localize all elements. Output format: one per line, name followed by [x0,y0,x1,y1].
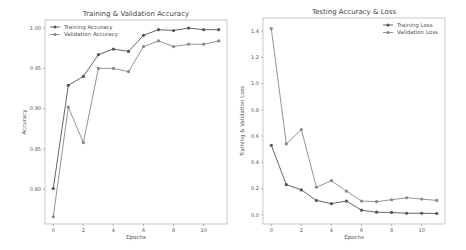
data-point [172,29,175,32]
accuracy-chart: Training & Validation Accuracy0246810Epo… [21,10,227,241]
data-point [300,128,303,131]
legend: Training LossValidation Loss [383,22,438,36]
data-point [97,53,100,56]
data-point [390,211,393,214]
data-point [157,39,160,42]
series-line-validation-loss [271,28,436,201]
data-point [405,212,408,215]
y-tick-label: 0.2 [251,185,259,191]
figure: Training & Validation Accuracy0246810Epo… [0,0,466,250]
legend-label: Training Accuracy [63,24,113,31]
x-tick-label: 6 [360,227,363,233]
data-point [420,197,423,200]
y-tick-label: 1.00 [30,25,41,31]
data-point [187,43,190,46]
x-tick-label: 6 [142,227,145,233]
data-point [112,47,115,50]
y-tick-label: 0.4 [251,159,259,165]
chart-title: Testing Accuracy & Loss [311,8,396,16]
plot-frame [45,20,227,224]
data-point [217,39,220,42]
y-tick-label: 0.0 [251,212,259,218]
series-line-validation-accuracy [53,41,218,217]
data-point [270,144,273,147]
x-tick-label: 8 [390,227,393,233]
data-point [360,209,363,212]
data-point [157,28,160,31]
legend: Training AccuracyValidation Accuracy [50,24,119,39]
data-point [375,211,378,214]
y-tick-label: 1.2 [251,54,259,60]
loss-chart: Testing Accuracy & Loss0246810Epochs0.00… [239,8,445,241]
x-tick-label: 4 [112,227,115,233]
x-tick-label: 2 [82,227,85,233]
y-tick-label: 0.85 [30,146,41,152]
y-tick-label: 0.80 [30,186,41,192]
y-tick-label: 0.90 [30,105,41,111]
data-point [67,105,70,108]
data-point [285,142,288,145]
data-point [285,183,288,186]
data-point [82,141,85,144]
data-point [300,188,303,191]
data-point [435,199,438,202]
data-point [420,212,423,215]
data-point [390,198,393,201]
series-line-training-accuracy [53,28,218,188]
data-point [330,202,333,205]
y-tick-label: 1.4 [251,28,259,34]
y-tick-label: 0.8 [251,107,259,113]
x-tick-label: 0 [270,227,273,233]
data-point [345,190,348,193]
x-tick-label: 10 [200,227,206,233]
data-point [112,67,115,70]
data-point [142,34,145,37]
x-axis-label: Epochs [344,234,364,241]
data-point [330,179,333,182]
data-point [270,27,273,30]
data-point [67,84,70,87]
data-point [345,199,348,202]
data-point [315,186,318,189]
data-point [405,196,408,199]
x-tick-label: 8 [172,227,175,233]
x-tick-label: 0 [52,227,55,233]
data-point [172,45,175,48]
y-tick-label: 0.95 [30,65,41,71]
legend-marker [53,25,56,28]
x-tick-label: 2 [300,227,303,233]
data-point [315,199,318,202]
series-line-training-loss [271,145,436,213]
legend-label: Validation Loss [397,29,438,35]
y-tick-label: 0.6 [251,133,259,139]
x-axis-label: Epochs [126,234,146,241]
y-tick-label: 1.0 [251,80,259,86]
legend-marker [386,31,389,34]
data-point [52,215,55,218]
data-point [142,45,145,48]
legend-label: Validation Accuracy [64,31,119,38]
y-axis-label: Accuracy [21,109,28,135]
data-point [375,200,378,203]
legend-label: Training Loss [396,22,433,29]
chart-title: Training & Validation Accuracy [82,10,189,18]
legend-marker [386,23,389,26]
data-point [202,43,205,46]
data-point [127,70,130,73]
data-point [187,26,190,29]
plot-frame [263,18,445,224]
data-point [360,199,363,202]
y-axis-label: Training & Validation Loss [239,86,246,158]
data-point [97,67,100,70]
data-point [435,212,438,215]
x-tick-label: 10 [418,227,424,233]
legend-marker [53,33,56,36]
data-point [217,28,220,31]
data-point [127,50,130,53]
data-point [202,28,205,31]
data-point [52,187,55,190]
data-point [82,75,85,78]
x-tick-label: 4 [330,227,333,233]
